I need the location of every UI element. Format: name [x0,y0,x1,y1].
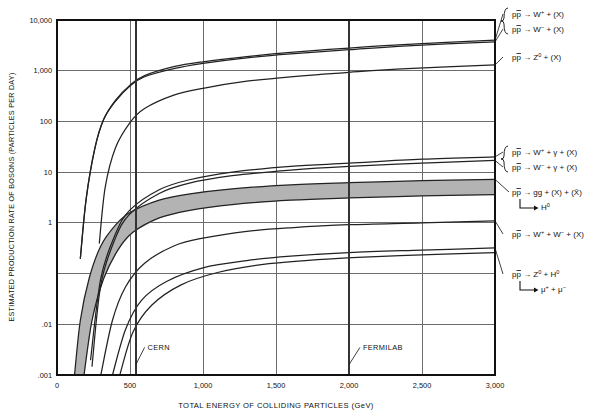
label-w-minus-x: pp → W− + (X) [512,24,564,34]
series-label-text: pp → Z0 + H0 [512,269,559,279]
y-tick-label: 1,000 [34,66,53,75]
series-label-text: pp → W+ + γ + (X) [512,147,577,157]
y-tick-label: 10 [44,168,52,177]
label-w-plus-w-minus-x: pp → W+ + W− + (X) [512,229,584,239]
series-label-text: pp → W− + (X) [512,24,564,34]
x-tick-label: 3,000 [486,381,505,390]
x-tick-label: 2,500 [413,381,432,390]
x-tick-label: 2,000 [340,381,359,390]
series-label-text: μ+ + μ− [541,284,566,294]
x-tick-label: 1,000 [194,381,213,390]
y-tick-label: 100 [40,117,52,126]
label-w-minus-gamma-x: pp → W− + γ + (X) [512,162,577,172]
label-z0-h0: pp → Z0 + H0 [512,269,559,279]
annotation-label-fermilab: FERMILAB [363,343,403,352]
x-tick-label: 1,500 [267,381,286,390]
label-w-plus-gamma-x: pp → W+ + γ + (X) [512,147,577,157]
label-w-plus-x: pp → W+ + (X) [512,9,564,19]
chart-background [0,0,603,416]
y-axis-title: ESTIMATED PRODUCTION RATE OF BOSONS (PAR… [7,72,16,321]
y-tick-label: 10,000 [29,16,52,25]
y-tick-label: .01 [42,320,52,329]
annotation-label-cern: CERN [148,343,170,352]
series-label-text: pp → W+ + W− + (X) [512,229,584,239]
y-tick-label: 1 [48,218,52,227]
label-z0-x: pp → Z0 + (X) [512,52,561,62]
series-label-text: pp → gg + (X) + (X̄) [512,188,582,197]
production-rate-chart: 05001,0001,5002,0002,5003,000 10,0001,00… [0,0,603,416]
label-gg-x-xbar: pp → gg + (X) + (X̄) [512,188,582,197]
series-label-text: pp → W− + γ + (X) [512,162,577,172]
x-tick-label: 0 [55,381,59,390]
x-axis-title: TOTAL ENERGY OF COLLIDING PARTICLES (GeV… [178,401,374,410]
x-tick-label: 500 [124,381,136,390]
series-label-text: pp → Z0 + (X) [512,52,561,62]
y-tick-label: .001 [38,371,52,380]
series-label-text: pp → W+ + (X) [512,9,564,19]
